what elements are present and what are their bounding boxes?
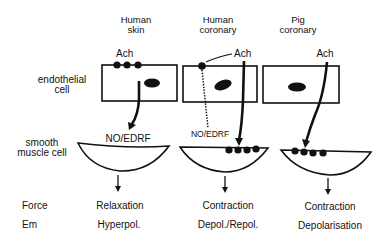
- col3-nucleus: [288, 83, 306, 92]
- col2-force: Contraction: [202, 200, 253, 211]
- col3-subtitle: coronary: [280, 24, 317, 35]
- col3-arrowhead: [302, 139, 310, 148]
- col2-muscle-receptor: [252, 145, 259, 152]
- column-pig-coronary: Pig coronary Ach Contraction Depolarisat…: [263, 14, 371, 231]
- col3-down-arrowhead: [325, 189, 331, 195]
- col2-nucleus: [213, 77, 233, 92]
- col3-muscle-receptor: [309, 149, 316, 156]
- col1-receptor: [123, 61, 130, 68]
- col3-signal-arrow: [306, 62, 327, 142]
- col2-muscle-receptor: [225, 146, 232, 153]
- col1-receptor: [113, 61, 120, 68]
- col1-signal-arrow: [132, 81, 139, 124]
- col3-em: Depolarisation: [298, 220, 362, 231]
- col3-muscle-receptor: [319, 149, 326, 156]
- col1-force: Relaxation: [96, 200, 143, 211]
- label-endothelial-cell: cell: [54, 84, 69, 95]
- col2-dotted-no-path: [202, 70, 208, 128]
- label-em: Em: [22, 219, 37, 230]
- col2-agonist-pointer: [206, 54, 232, 62]
- col2-arrowhead: [235, 138, 243, 146]
- column-human-coronary: Human coronary Ach NO/EDRF Contraction D…: [180, 14, 268, 230]
- col3-muscle-receptor: [300, 148, 307, 155]
- col2-signal-arrow: [239, 61, 244, 140]
- col3-muscle-receptor: [291, 147, 298, 154]
- col1-mediator: NO/EDRF: [106, 133, 151, 144]
- col2-subtitle: coronary: [200, 24, 237, 35]
- col2-agonist: Ach: [234, 48, 251, 59]
- col1-smooth-muscle-cell: [78, 143, 169, 171]
- label-muscle-cell: muscle cell: [17, 147, 66, 158]
- col2-mediator: NO/EDRF: [191, 129, 229, 139]
- label-force: Force: [22, 200, 48, 211]
- endothelium-smooth-muscle-diagram: endothelial cell smooth muscle cell Forc…: [0, 0, 386, 244]
- col2-muscle-receptor: [234, 146, 241, 153]
- col2-muscle-receptor: [243, 146, 250, 153]
- col2-em: Depol./Repol.: [198, 219, 259, 230]
- col1-receptor: [134, 61, 141, 68]
- col1-nucleus: [144, 79, 160, 88]
- col2-down-arrowhead: [222, 187, 228, 193]
- col1-subtitle: skin: [128, 24, 145, 35]
- column-human-skin: Human skin Ach NO/EDRF Relaxation Hyperp…: [78, 14, 177, 230]
- col1-agonist: Ach: [116, 48, 133, 59]
- col2-receptor: [198, 62, 206, 70]
- col1-em: Hyperpol.: [98, 219, 141, 230]
- col1-down-arrowhead: [115, 186, 121, 192]
- col3-agonist: Ach: [316, 48, 333, 59]
- col3-force: Contraction: [304, 201, 355, 212]
